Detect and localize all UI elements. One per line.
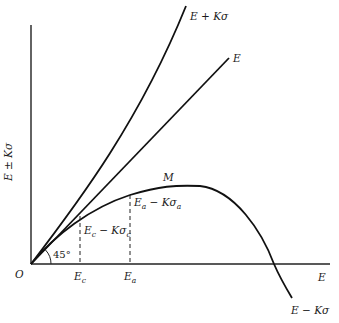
point-label-ea-minus-k-sigma-a: Ea − Kσa	[133, 196, 181, 211]
angle-arc	[46, 250, 52, 264]
x-tick-ea: Ea	[123, 270, 136, 285]
peak-label-m: M	[162, 171, 174, 183]
origin-label: O	[15, 268, 24, 280]
lower-curve-label: E − Kσ	[290, 304, 330, 316]
point-label-ec-minus-k-sigma-c: Ec − Kσc	[83, 224, 131, 239]
y-axis-label: E ± Kσ	[2, 142, 14, 182]
x-tick-ec: Ec	[73, 270, 87, 285]
risk-return-diagram: E ± Kσ E O 45° E + Kσ E E − Kσ M Ec Ea E…	[0, 0, 339, 323]
upper-curve-label: E + Kσ	[189, 10, 229, 22]
mean-line-label: E	[232, 52, 241, 64]
angle-label: 45°	[53, 249, 71, 260]
x-axis-label: E	[317, 271, 326, 283]
